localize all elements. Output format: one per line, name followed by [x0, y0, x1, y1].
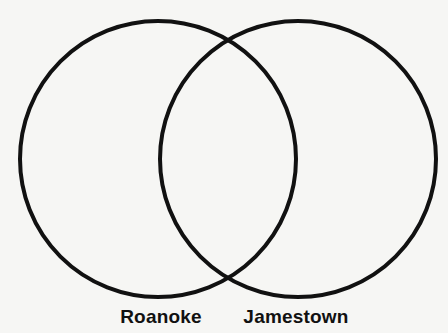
venn-diagram	[0, 0, 448, 333]
label-jamestown: Jamestown	[243, 306, 348, 328]
label-roanoke: Roanoke	[120, 306, 202, 328]
